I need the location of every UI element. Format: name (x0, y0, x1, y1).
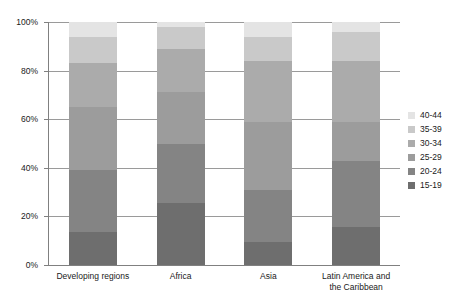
bar-segment (332, 227, 380, 265)
legend-item[interactable]: 25-29 (408, 150, 466, 164)
bar-segment (332, 161, 380, 228)
bar-segment (69, 170, 117, 232)
y-axis: 100%80%60%40%20%0% (0, 0, 46, 307)
plot-area (49, 22, 400, 265)
x-axis-tick-label-line: Latin America and (312, 271, 400, 282)
bar-group (69, 22, 117, 265)
y-axis-tick-label: 0% (26, 261, 38, 270)
bar-segment (69, 107, 117, 170)
x-axis-tick-label-line: Developing regions (49, 271, 137, 282)
y-axis-tick-label: 60% (21, 115, 38, 124)
bar-segment (332, 122, 380, 161)
bar-stack (332, 22, 380, 265)
x-axis: Developing regionsAfricaAsiaLatin Americ… (49, 271, 400, 305)
bar-segment (157, 203, 205, 265)
x-axis-tick-label: Latin America andthe Caribbean (312, 271, 400, 293)
bar-stack (69, 22, 117, 265)
y-axis-tick-label: 80% (21, 66, 38, 75)
x-axis-line (48, 265, 400, 266)
legend-swatch-icon (408, 154, 415, 161)
bar-segment (69, 232, 117, 265)
bar-segment (332, 32, 380, 61)
legend-item-label: 40-44 (420, 111, 442, 120)
legend-item[interactable]: 35-39 (408, 122, 466, 136)
x-axis-tick-label: Africa (137, 271, 225, 282)
bar-segment (157, 92, 205, 143)
bar-group (332, 22, 380, 265)
legend-swatch-icon (408, 140, 415, 147)
x-axis-tick-label-line: Africa (137, 271, 225, 282)
bar-segment (69, 22, 117, 37)
legend-item-label: 35-39 (420, 125, 442, 134)
chart-legend: 40-4435-3930-3425-2920-2415-19 (408, 108, 466, 192)
bar-segment (244, 22, 292, 37)
y-axis-tick-label: 20% (21, 212, 38, 221)
bar-segment (332, 61, 380, 122)
bar-segment (244, 37, 292, 61)
legend-swatch-icon (408, 112, 415, 119)
bar-stack (244, 22, 292, 265)
legend-item-label: 25-29 (420, 153, 442, 162)
x-axis-tick-label: Developing regions (49, 271, 137, 282)
bar-segment (69, 37, 117, 64)
bar-segment (244, 61, 292, 122)
legend-swatch-icon (408, 182, 415, 189)
bar-segment (244, 122, 292, 190)
x-axis-tick-label-line: Asia (225, 271, 313, 282)
bar-segment (157, 49, 205, 93)
bar-segment (157, 27, 205, 49)
legend-item-label: 30-34 (420, 139, 442, 148)
bar-segment (157, 144, 205, 204)
legend-item[interactable]: 20-24 (408, 164, 466, 178)
x-axis-tick-label-line: the Caribbean (312, 282, 400, 293)
legend-item[interactable]: 40-44 (408, 108, 466, 122)
legend-item[interactable]: 15-19 (408, 178, 466, 192)
bar-stack (157, 22, 205, 265)
legend-item[interactable]: 30-34 (408, 136, 466, 150)
bar-group (244, 22, 292, 265)
y-axis-tick-label: 40% (21, 163, 38, 172)
stacked-bar-chart: 100%80%60%40%20%0% Developing regionsAfr… (0, 0, 468, 307)
bar-group (157, 22, 205, 265)
bar-segment (244, 190, 292, 242)
legend-swatch-icon (408, 126, 415, 133)
bar-segment (157, 22, 205, 27)
y-axis-tick-label: 100% (16, 18, 38, 27)
bar-segment (244, 242, 292, 265)
x-axis-tick-label: Asia (225, 271, 313, 282)
bar-segment (69, 63, 117, 107)
legend-item-label: 20-24 (420, 167, 442, 176)
legend-swatch-icon (408, 168, 415, 175)
legend-item-label: 15-19 (420, 181, 442, 190)
bar-segment (332, 22, 380, 32)
